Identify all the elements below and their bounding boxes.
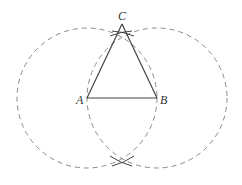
diagram-svg: A B C [0,0,242,185]
segment-bc [122,24,157,98]
segment-ac [87,24,122,98]
label-b: B [160,93,168,107]
construction-diagram: A B C [0,0,242,185]
arc-bottom-from-a [112,156,134,166]
label-a: A [75,93,84,107]
label-c: C [118,9,127,23]
